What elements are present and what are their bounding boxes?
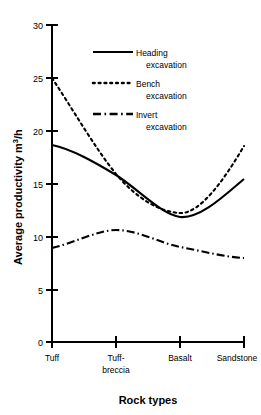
x-axis-title: Rock types	[119, 394, 178, 406]
chart-legend: Heading excavation Bench excavation Inve…	[93, 48, 187, 132]
y-axis-tick-labels: 30 25 20 15 10 5 0	[33, 21, 43, 348]
series-line-heading-excavation	[52, 145, 244, 217]
y-axis-title-main: Average productivity m	[12, 143, 24, 265]
y-tick-label-15: 15	[33, 180, 43, 190]
legend-label-heading-excavation-line2: excavation	[146, 60, 187, 70]
series-line-invert-excavation	[52, 230, 244, 258]
x-label-basalt: Basalt	[168, 353, 192, 363]
x-axis-tick-labels: Tuff Tuff- breccia Basalt Sandstone	[45, 353, 258, 375]
x-label-tuff: Tuff	[45, 353, 60, 363]
y-tick-label-5: 5	[38, 286, 43, 296]
x-label-tuff-breccia-line1: Tuff-	[107, 353, 124, 363]
y-tick-label-25: 25	[33, 74, 43, 84]
y-tick-label-10: 10	[33, 233, 43, 243]
y-axis-title-tail: /h	[12, 129, 24, 139]
x-label-tuff-breccia-line2: breccia	[102, 365, 130, 375]
x-label-sandstone: Sandstone	[217, 353, 258, 363]
legend-label-heading-excavation-line1: Heading	[136, 48, 168, 58]
legend-label-invert-excavation-line2: excavation	[146, 122, 187, 132]
chart-container: Average productivity m3/h 30 25 20 15 10…	[0, 0, 261, 415]
y-tick-label-0: 0	[38, 338, 43, 348]
legend-label-bench-excavation-line1: Bench	[136, 79, 160, 89]
line-chart: Average productivity m3/h 30 25 20 15 10…	[0, 0, 261, 415]
svg-text:Average productivity m3/h: Average productivity m3/h	[11, 129, 24, 265]
y-tick-label-30: 30	[33, 21, 43, 31]
y-axis-title: Average productivity m3/h	[11, 129, 24, 265]
y-tick-label-20: 20	[33, 127, 43, 137]
legend-label-invert-excavation-line1: Invert	[136, 110, 158, 120]
legend-label-bench-excavation-line2: excavation	[146, 91, 187, 101]
